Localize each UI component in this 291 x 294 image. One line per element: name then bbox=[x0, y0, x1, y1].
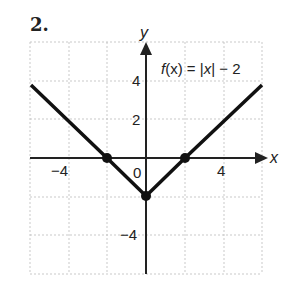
point-2-0 bbox=[180, 153, 190, 163]
graph bbox=[0, 0, 291, 294]
x-axis-arrow-icon bbox=[255, 152, 268, 164]
point-neg2-0 bbox=[102, 153, 112, 163]
tick-y-2: 2 bbox=[132, 111, 140, 128]
tick-y-4: 4 bbox=[132, 72, 140, 89]
tick-x-4: 4 bbox=[217, 162, 225, 179]
point-0-neg2 bbox=[141, 191, 151, 201]
y-axis-label: y bbox=[140, 24, 148, 42]
x-axis-label: x bbox=[270, 149, 278, 167]
y-axis-arrow-icon bbox=[140, 42, 152, 55]
tick-y-neg4: −4 bbox=[120, 226, 137, 243]
tick-x-0: 0 bbox=[133, 164, 141, 181]
tick-x-neg4: −4 bbox=[51, 162, 68, 179]
equation-label: f(x) = |x| − 2 bbox=[161, 60, 241, 77]
